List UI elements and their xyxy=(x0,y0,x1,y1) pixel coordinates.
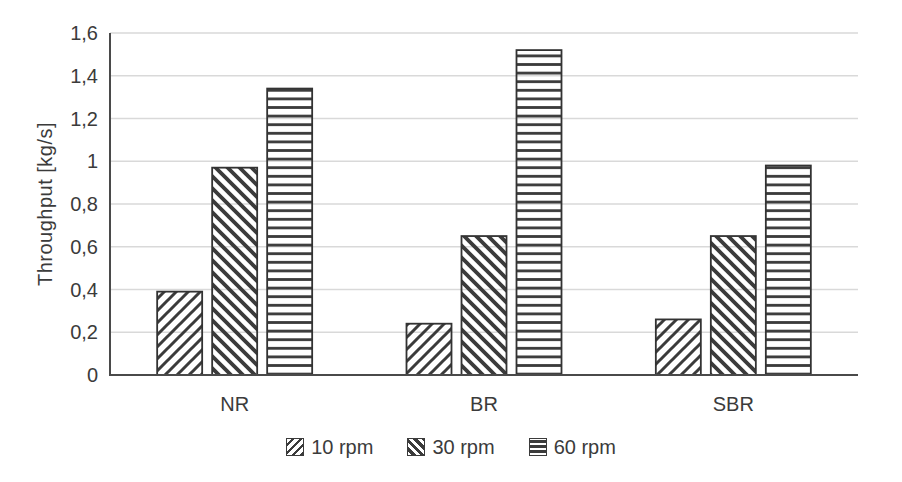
y-tick-label: 1 xyxy=(87,150,98,172)
x-category-label-br: BR xyxy=(470,393,498,415)
bar-sbr-60-rpm xyxy=(766,166,811,375)
bar-sbr-30-rpm xyxy=(711,236,756,375)
bar-nr-60-rpm xyxy=(267,89,312,375)
legend-swatch-diagonal-down-icon xyxy=(407,438,425,456)
legend-item-30-rpm: 30 rpm xyxy=(407,436,494,458)
bar-sbr-10-rpm xyxy=(656,319,701,375)
legend-item-10-rpm: 10 rpm xyxy=(286,436,373,458)
bar-br-60-rpm xyxy=(517,50,562,375)
y-tick-label: 1,4 xyxy=(70,65,98,87)
y-tick-label: 0,8 xyxy=(70,193,98,215)
chart-legend: 10 rpm30 rpm60 rpm xyxy=(0,436,902,458)
legend-label: 60 rpm xyxy=(554,436,616,458)
legend-item-60-rpm: 60 rpm xyxy=(529,436,616,458)
bar-nr-30-rpm xyxy=(212,168,257,375)
bar-br-10-rpm xyxy=(407,324,452,375)
legend-label: 30 rpm xyxy=(432,436,494,458)
legend-label: 10 rpm xyxy=(311,436,373,458)
y-axis-title: Throughput [kg/s] xyxy=(34,122,57,286)
x-category-label-nr: NR xyxy=(220,393,249,415)
bar-nr-10-rpm xyxy=(157,292,202,375)
y-tick-label: 0,2 xyxy=(70,321,98,343)
y-tick-label: 0 xyxy=(87,364,98,386)
bars xyxy=(157,50,811,375)
y-tick-label: 0,6 xyxy=(70,236,98,258)
y-tick-label: 1,2 xyxy=(70,108,98,130)
y-tick-label: 1,6 xyxy=(70,22,98,44)
legend-swatch-diagonal-up-icon xyxy=(286,438,304,456)
y-tick-label: 0,4 xyxy=(70,279,98,301)
chart-plot-area: 00,20,40,60,811,21,41,6NRBRSBR xyxy=(0,0,902,482)
bar-br-30-rpm xyxy=(462,236,507,375)
legend-swatch-horizontal-icon xyxy=(529,438,547,456)
throughput-bar-chart-figure: 00,20,40,60,811,21,41,6NRBRSBR Throughpu… xyxy=(0,0,902,482)
x-category-label-sbr: SBR xyxy=(713,393,754,415)
